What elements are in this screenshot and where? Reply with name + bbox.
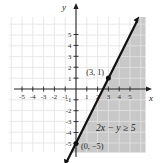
point-3-1 — [106, 76, 111, 81]
point-0-neg5 — [74, 141, 79, 146]
x-tick: 5 — [128, 93, 132, 100]
y-tick: 5 — [68, 31, 72, 38]
y-tick: 3 — [68, 53, 72, 60]
y-tick: -3 — [66, 118, 72, 125]
y-axis-label: y — [61, 2, 66, 12]
y-tick: 1 — [68, 75, 71, 82]
y-tick: 2 — [68, 64, 72, 71]
x-tick: 1 — [85, 93, 88, 100]
x-tick: 4 — [117, 93, 121, 100]
x-tick: -5 — [19, 93, 25, 100]
graph-canvas: -5 -4 -3 -2 -1 1 2 3 4 5 5 4 3 2 1 -1 -2… — [0, 0, 161, 163]
x-tick: -3 — [41, 93, 47, 100]
y-tick: -4 — [66, 129, 72, 136]
x-tick: 3 — [107, 93, 111, 100]
y-tick: -2 — [66, 107, 72, 114]
x-tick: -2 — [52, 93, 58, 100]
y-axis-arrow-icon — [73, 3, 78, 9]
inequality-graph: -5 -4 -3 -2 -1 1 2 3 4 5 5 4 3 2 1 -1 -2… — [0, 0, 161, 163]
y-tick: 4 — [68, 42, 72, 49]
point-label-3-1: (3, 1) — [86, 68, 104, 77]
point-label-0-neg5: (0, −5) — [81, 142, 104, 151]
x-axis-label: x — [148, 93, 153, 103]
x-axis-arrow-icon — [146, 86, 152, 91]
y-tick: -1 — [66, 96, 72, 103]
y-tick: -5 — [66, 140, 72, 147]
x-tick: -4 — [30, 93, 36, 100]
inequality-label: 2x − y ≥ 5 — [96, 122, 136, 133]
